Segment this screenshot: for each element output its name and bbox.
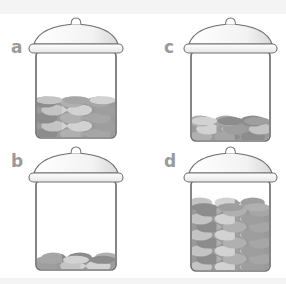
jars-illustration: a b c d xyxy=(0,0,286,284)
jar-lid-dome-b xyxy=(34,153,118,173)
jar-lid-rim-c xyxy=(184,44,277,53)
jar-d: d xyxy=(164,147,279,273)
jar-lid-dome-a xyxy=(34,24,118,44)
jar-lid-dome-c xyxy=(189,24,272,44)
jar-lid-rim-d xyxy=(184,173,277,182)
fish xyxy=(90,256,116,264)
fish xyxy=(218,203,244,211)
jar-lid-rim-b xyxy=(29,173,123,182)
fish xyxy=(63,256,89,264)
fish xyxy=(191,117,217,125)
jar-label-b: b xyxy=(11,151,23,171)
jar-lid-rim-a xyxy=(29,44,123,53)
jar-contents-d xyxy=(182,198,279,274)
fish xyxy=(218,117,244,125)
jar-contents-c xyxy=(182,116,279,144)
fish xyxy=(90,96,116,104)
fish xyxy=(244,203,270,211)
fish xyxy=(191,203,217,211)
jar-label-d: d xyxy=(164,151,176,171)
jar-c: c xyxy=(164,18,279,143)
jar-lid-dome-d xyxy=(189,153,272,173)
jar-b: b xyxy=(11,147,125,272)
fish xyxy=(36,256,62,264)
fish xyxy=(244,117,270,125)
jar-label-c: c xyxy=(164,37,174,57)
jar-contents-a xyxy=(27,96,124,140)
jar-lid-knob-a xyxy=(71,18,81,25)
fish xyxy=(63,96,89,104)
jar-lid-knob-d xyxy=(226,147,236,154)
jar-a: a xyxy=(11,18,125,140)
jar-lid-knob-c xyxy=(226,18,236,25)
jar-label-a: a xyxy=(11,37,22,57)
fish xyxy=(36,96,62,104)
jar-lid-knob-b xyxy=(71,147,81,154)
